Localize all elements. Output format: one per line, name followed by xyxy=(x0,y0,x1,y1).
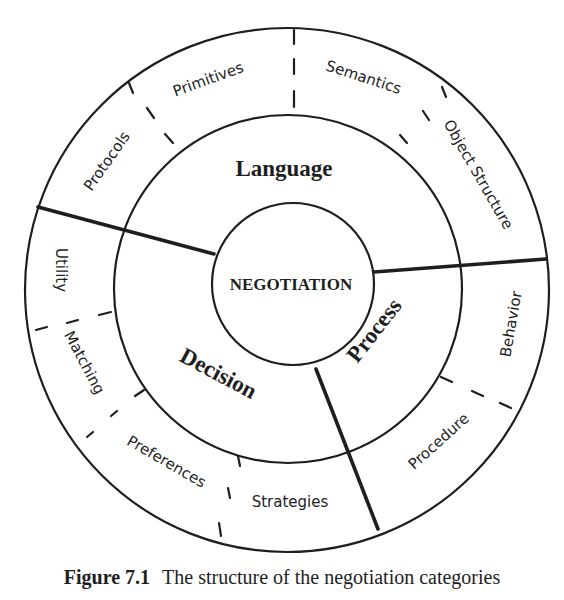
sub-matching: Matching xyxy=(60,328,108,397)
dashes-behavior-procedure xyxy=(441,377,511,408)
dashes-utility-matching xyxy=(36,312,111,330)
dashes-semantics-object xyxy=(400,87,446,143)
caption-text: The structure of the negotiation categor… xyxy=(162,566,500,588)
category-process: Process xyxy=(342,294,407,367)
negotiation-structure-diagram: NEGOTIATION Language Decision Process Pr… xyxy=(0,0,564,560)
sub-behavior: Behavior xyxy=(496,289,525,359)
category-language: Language xyxy=(235,156,332,181)
sub-preferences: Preferences xyxy=(124,432,210,492)
sub-strategies: Strategies xyxy=(252,493,329,511)
core-label: NEGOTIATION xyxy=(230,275,353,294)
sub-protocols: Protocols xyxy=(80,128,134,194)
sub-utility: Utility xyxy=(52,248,70,292)
sub-semantics: Semantics xyxy=(324,57,404,98)
sub-object-structure: Object Structure xyxy=(440,117,517,233)
dashes-matching-preferences xyxy=(87,390,144,437)
figure-caption: Figure 7.1The structure of the negotiati… xyxy=(0,566,564,589)
sub-primitives: Primitives xyxy=(171,58,247,100)
figure-label: Figure 7.1 xyxy=(64,566,150,588)
dashes-protocols-primitives xyxy=(129,83,173,143)
sub-procedure: Procedure xyxy=(405,409,473,473)
divider-language-decision xyxy=(38,207,214,254)
dashes-preferences-strategies xyxy=(219,456,240,536)
